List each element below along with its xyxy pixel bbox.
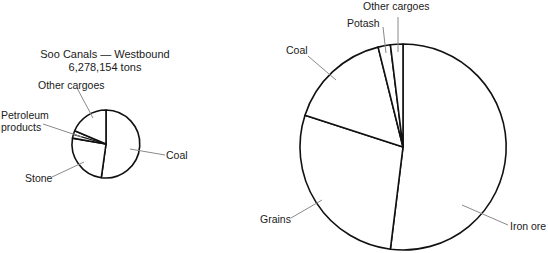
leader-small-other (77, 88, 93, 118)
leader-small-stone (52, 162, 84, 177)
small-pie-slice-coal (101, 110, 140, 178)
small-label-other: Other cargoes (38, 79, 105, 91)
leader-large-coal (308, 56, 336, 80)
large-label-iron-ore: Iron ore (510, 220, 546, 232)
small-pie-title: Soo Canals — Westbound (40, 48, 169, 60)
large-label-other: Other cargoes (363, 0, 430, 12)
large-label-potash: Potash (347, 17, 380, 29)
small-pie-chart: Soo Canals — Westbound 6,278,154 tons Ot… (1, 48, 188, 184)
small-label-stone: Stone (25, 172, 53, 184)
small-pie-slice-stone (72, 138, 106, 178)
small-pie-wedges (72, 110, 140, 178)
large-label-coal: Coal (286, 44, 308, 56)
chart-canvas: Soo Canals — Westbound 6,278,154 tons Ot… (0, 0, 548, 253)
small-label-petroleum-line1: Petroleum (1, 109, 49, 121)
small-label-petroleum-line2: products (1, 121, 41, 133)
large-label-grains: Grains (260, 213, 291, 225)
large-pie-chart: Other cargoes Potash Coal Grains Iron or… (260, 0, 546, 250)
large-pie-wedges (300, 44, 506, 250)
leader-large-grains (291, 200, 322, 218)
small-pie-subtitle: 6,278,154 tons (69, 61, 142, 73)
large-pie-slice-iron-ore (390, 44, 506, 250)
small-label-coal: Coal (166, 149, 188, 161)
